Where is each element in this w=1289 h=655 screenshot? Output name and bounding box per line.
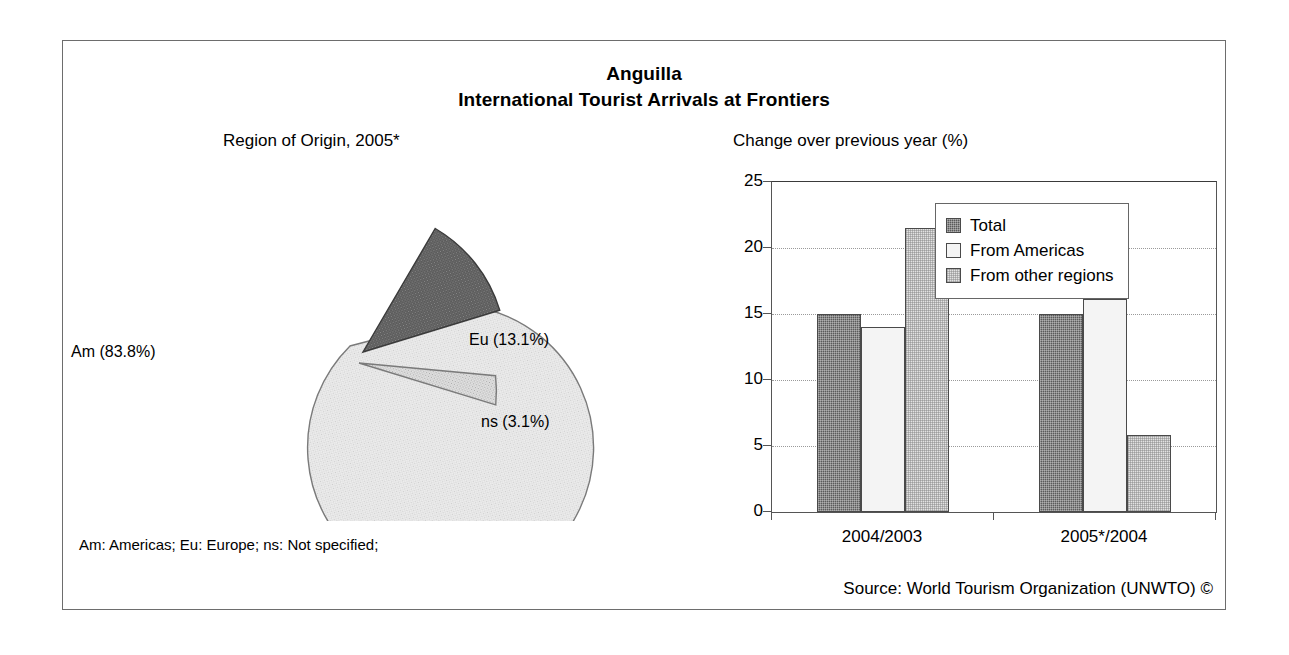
y-axis-tick-label: 0 <box>754 501 763 521</box>
abbreviation-note: Am: Americas; Eu: Europe; ns: Not specif… <box>79 536 378 553</box>
pie-chart-caption: Region of Origin, 2005* <box>223 131 400 151</box>
x-axis-tick-mark <box>1215 513 1216 520</box>
pie-label-ns: ns (3.1%) <box>481 413 549 431</box>
x-axis-tick-mark <box>771 513 772 520</box>
y-axis-tick-mark <box>763 511 771 512</box>
bar-chart: 0510152025 2004/20032005*/2004 Total Fro… <box>709 181 1219 581</box>
bar <box>817 314 861 512</box>
y-axis-tick-mark <box>763 445 771 446</box>
chart-legend: Total From Americas From other regions <box>935 203 1129 299</box>
legend-item: Total <box>946 213 1114 238</box>
y-axis-tick-label: 5 <box>754 435 763 455</box>
legend-swatch-from-other-regions <box>946 268 961 283</box>
legend-item: From Americas <box>946 238 1114 263</box>
legend-label-from-other-regions: From other regions <box>970 266 1114 286</box>
y-axis-tick-mark <box>763 379 771 380</box>
bar <box>1083 299 1127 512</box>
pie-chart: Am (83.8%) Eu (13.1%) ns (3.1%) <box>63 161 663 521</box>
figure-frame: Anguilla International Tourist Arrivals … <box>62 40 1226 610</box>
bar <box>1039 314 1083 512</box>
pie-label-am: Am (83.8%) <box>71 343 155 361</box>
x-axis-tick-mark <box>993 513 994 520</box>
y-axis-tick-mark <box>763 181 771 182</box>
page-subtitle: International Tourist Arrivals at Fronti… <box>63 89 1225 111</box>
y-axis-tick-mark <box>763 313 771 314</box>
x-axis-tick-label: 2004/2003 <box>842 527 922 547</box>
bar <box>1127 435 1171 512</box>
y-axis-tick-label: 10 <box>744 369 763 389</box>
x-axis-tick-label: 2005*/2004 <box>1061 527 1148 547</box>
bar <box>861 327 905 512</box>
legend-swatch-total <box>946 218 961 233</box>
legend-swatch-from-americas <box>946 243 961 258</box>
y-axis-tick-label: 20 <box>744 237 763 257</box>
bar-chart-caption: Change over previous year (%) <box>733 131 968 151</box>
legend-item: From other regions <box>946 263 1114 288</box>
y-axis-tick-label: 15 <box>744 303 763 323</box>
y-axis-tick-label: 25 <box>744 171 763 191</box>
source-note: Source: World Tourism Organization (UNWT… <box>843 579 1213 599</box>
page-title: Anguilla <box>63 63 1225 85</box>
pie-label-eu: Eu (13.1%) <box>469 331 549 349</box>
legend-label-total: Total <box>970 216 1006 236</box>
pie-chart-svg <box>63 161 663 521</box>
legend-label-from-americas: From Americas <box>970 241 1084 261</box>
y-axis-tick-mark <box>763 247 771 248</box>
